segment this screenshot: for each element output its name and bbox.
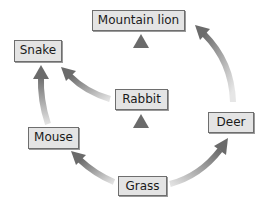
arrow-grass-to-mouse [71, 151, 114, 182]
food-web-diagram: Mountain lion Snake Rabbit Mouse Deer Gr… [0, 0, 269, 207]
node-rabbit: Rabbit [115, 89, 168, 110]
arrow-deer-to-mountain-lion [195, 25, 233, 102]
arrow-grass-to-rabbit [133, 114, 149, 162]
arrow-mouse-to-snake [33, 65, 49, 124]
arrow-rabbit-to-snake [61, 67, 110, 99]
node-grass: Grass [118, 176, 167, 196]
arrow-grass-to-deer [170, 138, 228, 184]
arrow-rabbit-to-mountain-lion [133, 34, 149, 80]
node-deer: Deer [208, 112, 254, 133]
node-mouse: Mouse [28, 127, 79, 149]
node-snake: Snake [14, 40, 62, 62]
node-mountain-lion: Mountain lion [92, 10, 185, 31]
